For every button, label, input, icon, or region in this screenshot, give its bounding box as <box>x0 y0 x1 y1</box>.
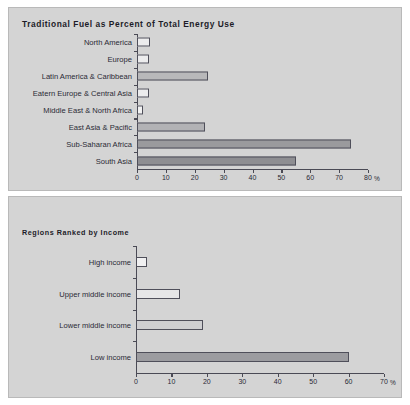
plot-area-regions-income: High incomeUpper middle incomeLower midd… <box>0 240 410 395</box>
category-label: Middle East & North Africa <box>43 105 132 114</box>
x-axis-unit-label: % <box>390 379 396 386</box>
bar <box>137 139 351 148</box>
x-axis-tick <box>171 374 172 377</box>
bar <box>136 257 147 267</box>
x-axis-tick <box>224 170 225 173</box>
x-axis-tick <box>253 170 254 173</box>
x-axis-tick-label: 0 <box>135 174 139 181</box>
chart-title-regions-income: Regions Ranked by Income <box>22 228 129 237</box>
y-axis-tick <box>134 152 137 153</box>
x-axis-tick <box>384 374 385 377</box>
x-axis-tick <box>349 374 350 377</box>
x-axis-tick-label: 70 <box>335 174 343 181</box>
category-label: South Asia <box>96 156 132 165</box>
category-label: North America <box>84 38 132 47</box>
category-label: Lower middle income <box>59 321 131 330</box>
category-label: Eatern Europe & Central Asia <box>33 89 132 98</box>
x-axis-tick-label: 20 <box>203 378 211 385</box>
y-axis-tick <box>133 341 136 342</box>
bar <box>136 352 349 362</box>
y-axis-tick <box>134 102 137 103</box>
chart-title-traditional-fuel: Traditional Fuel as Percent of Total Ene… <box>22 19 235 29</box>
x-axis-tick <box>310 170 311 173</box>
x-axis-tick <box>313 374 314 377</box>
y-axis-tick <box>133 278 136 279</box>
x-axis-tick <box>339 170 340 173</box>
x-axis-tick-label: 60 <box>306 174 314 181</box>
y-axis-tick <box>134 135 137 136</box>
y-axis-tick <box>133 246 136 247</box>
y-axis-tick <box>134 118 137 119</box>
x-axis-tick-label: 60 <box>345 378 353 385</box>
x-axis-tick <box>136 374 137 377</box>
x-axis-tick <box>137 170 138 173</box>
x-axis-tick-label: 40 <box>249 174 257 181</box>
category-label: East Asia & Pacific <box>69 122 132 131</box>
x-axis-tick-label: 30 <box>238 378 246 385</box>
figure-page: Traditional Fuel as Percent of Total Ene… <box>0 0 410 405</box>
x-axis-tick <box>278 374 279 377</box>
x-axis-line <box>136 373 384 374</box>
x-axis-tick <box>281 170 282 173</box>
bar <box>137 55 149 64</box>
x-axis-tick <box>195 170 196 173</box>
x-axis-tick-label: 20 <box>191 174 199 181</box>
bar <box>137 122 205 131</box>
category-label: Sub-Saharan Africa <box>66 139 132 148</box>
category-label: Europe <box>108 55 133 64</box>
bar <box>137 38 150 47</box>
bar <box>137 105 143 114</box>
x-axis-tick-label: 0 <box>134 378 138 385</box>
x-axis-tick-label: 30 <box>220 174 228 181</box>
x-axis-tick-label: 10 <box>162 174 170 181</box>
category-label: Low income <box>90 353 131 362</box>
y-axis-tick <box>134 51 137 52</box>
x-axis-tick-label: 40 <box>274 378 282 385</box>
x-axis-tick-label: 10 <box>168 378 176 385</box>
bar <box>137 156 296 165</box>
category-label: Upper middle income <box>59 289 131 298</box>
x-axis-tick <box>242 374 243 377</box>
bar <box>137 72 208 81</box>
y-axis-tick <box>134 68 137 69</box>
bar <box>136 320 203 330</box>
x-axis-tick-label: 70 <box>380 378 388 385</box>
x-axis-tick-label: 50 <box>309 378 317 385</box>
y-axis-tick <box>134 34 137 35</box>
x-axis-tick-label: 50 <box>277 174 285 181</box>
x-axis-tick <box>368 170 369 173</box>
bar <box>136 289 180 299</box>
x-axis-unit-label: % <box>374 175 380 182</box>
category-label: High income <box>89 257 131 266</box>
y-axis-tick <box>133 310 136 311</box>
bar <box>137 89 149 98</box>
x-axis-tick <box>207 374 208 377</box>
x-axis-tick-label: 80 <box>364 174 372 181</box>
y-axis-tick <box>134 85 137 86</box>
category-label: Latin America & Caribbean <box>42 72 132 81</box>
plot-area-traditional-fuel: North AmericaEuropeLatin America & Carib… <box>0 30 410 185</box>
x-axis-tick <box>166 170 167 173</box>
